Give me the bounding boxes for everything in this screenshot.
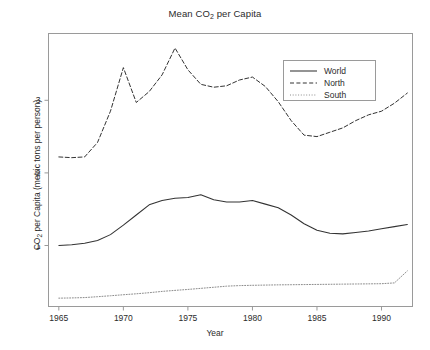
series-line-world [59, 195, 408, 246]
x-tick-label: 1965 [49, 313, 68, 323]
y-axis-ticks: 123 [36, 95, 49, 250]
x-tick-label: 1980 [243, 313, 262, 323]
x-axis-ticks: 196519701975198019851990 [49, 307, 391, 323]
x-tick-label: 1975 [178, 313, 197, 323]
x-tick-label: 1970 [114, 313, 133, 323]
legend-label-north: North [324, 78, 345, 88]
y-tick-label: 2 [36, 168, 41, 178]
legend-label-south: South [324, 90, 346, 100]
chart-figure: Mean CO2 per Capita CO2 per Capita (metr… [0, 0, 430, 350]
x-tick-label: 1990 [372, 313, 391, 323]
legend-label-world: World [324, 66, 346, 76]
series-line-south [59, 271, 408, 298]
plot-canvas: 196519701975198019851990 123 WorldNorthS… [0, 0, 430, 350]
y-tick-label: 3 [36, 95, 41, 105]
x-tick-label: 1985 [308, 313, 327, 323]
chart-legend: WorldNorthSouth [284, 61, 376, 101]
y-tick-label: 1 [36, 241, 41, 251]
